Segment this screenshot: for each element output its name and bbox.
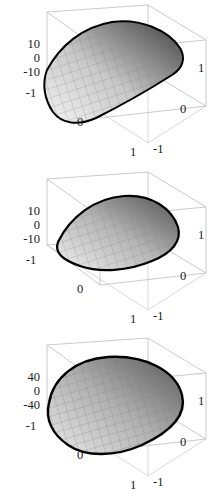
x-tick-label: -1 [26,86,36,100]
y-tick-label: 1 [198,394,204,408]
y-tick-label: 1 [198,228,204,242]
surface-plot-panel-3: 40 0 -40 -1 0 1 1 0 -1 [0,333,214,500]
z-tick-label: -10 [23,232,40,246]
y-tick-label: 1 [198,61,204,75]
panel-1-canvas: 10 0 -10 -1 0 1 1 0 -1 [0,0,214,167]
x-tick-label: 1 [130,478,136,492]
panel-1-surface [30,10,210,135]
y-tick-label: 0 [180,269,186,283]
z-tick-label: 0 [34,51,40,65]
surface-plot-stack: 10 0 -10 -1 0 1 1 0 -1 [0,0,214,500]
y-tick-label: -1 [153,475,163,489]
z-tick-label: 10 [28,37,41,51]
panel-2-z-ticks: 10 0 -10 [23,204,40,246]
x-tick-label: 0 [77,282,83,296]
z-tick-label: 10 [28,204,41,218]
y-tick-label: -1 [153,142,163,156]
panel-1-z-ticks: 10 0 -10 [23,37,40,79]
x-tick-label: -1 [26,253,36,267]
y-tick-label: 0 [180,435,186,449]
x-tick-label: -1 [26,419,36,433]
x-tick-label: 0 [77,115,83,129]
y-tick-label: -1 [153,309,163,323]
panel-3-surface [35,348,214,468]
y-tick-label: 0 [180,102,186,116]
surface-plot-panel-2: 10 0 -10 -1 0 1 1 0 -1 [0,167,214,334]
surface-plot-panel-1: 10 0 -10 -1 0 1 1 0 -1 [0,0,214,167]
x-tick-label: 1 [130,312,136,326]
z-tick-label: -10 [23,65,40,79]
panel-3-z-ticks: 40 0 -40 [23,370,40,412]
z-tick-label: 0 [34,218,40,232]
panel-3-canvas: 40 0 -40 -1 0 1 1 0 -1 [0,333,214,500]
x-tick-label: 1 [130,145,136,159]
z-tick-label: -40 [23,398,40,412]
x-tick-label: 0 [77,448,83,462]
panel-2-canvas: 10 0 -10 -1 0 1 1 0 -1 [0,167,214,334]
z-tick-label: 0 [34,384,40,398]
z-tick-label: 40 [28,370,41,384]
